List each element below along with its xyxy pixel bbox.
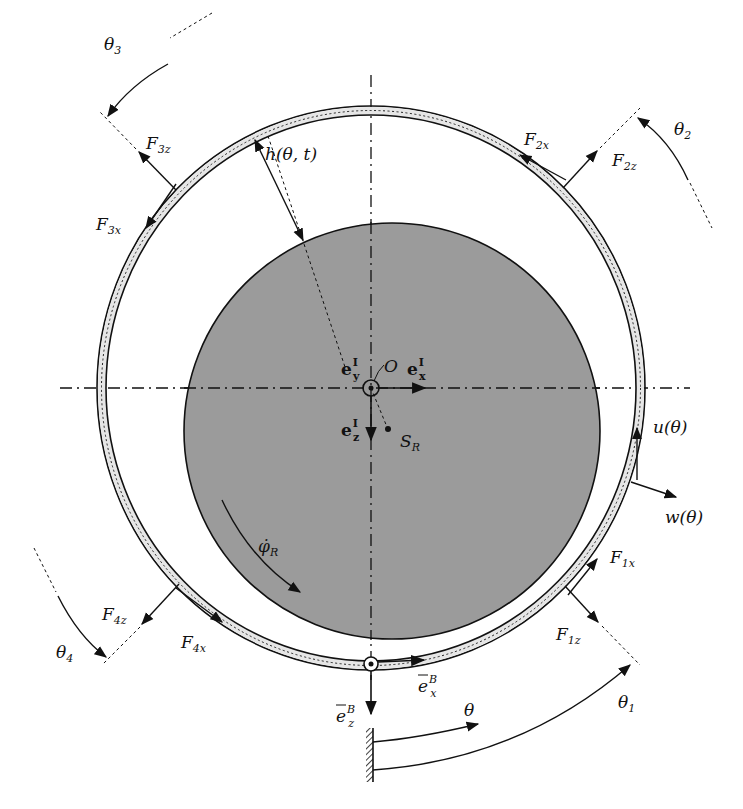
rotor-center-point [385, 426, 391, 432]
svg-text:eIz: eIz [341, 417, 359, 444]
svg-text:F1x: F1x [609, 547, 636, 570]
svg-text:eIy: eIy [341, 356, 360, 383]
svg-text:eBz: eBz [336, 703, 355, 730]
F2z-arrow [563, 151, 597, 188]
svg-text:F2z: F2z [611, 150, 637, 173]
svg-text:θ1: θ1 [618, 692, 635, 715]
F4z-arrow [142, 584, 179, 624]
svg-text:eIx: eIx [407, 356, 426, 383]
svg-text:F4z: F4z [101, 604, 127, 627]
svg-text:θ4: θ4 [56, 642, 73, 665]
w-displacement-arrow [631, 482, 676, 497]
force-1: F1x F1z [555, 547, 640, 665]
svg-text:F3x: F3x [95, 214, 122, 237]
origin-label: O [384, 356, 398, 376]
F3z-arrow [139, 152, 176, 190]
rotor-ring-diagram: h(θ, t) SR O eIx eIy eIz φ̇R F1x F1z u(θ… [0, 0, 743, 809]
spin-rate-label: φ̇ [258, 536, 270, 556]
theta3-arrow [108, 64, 168, 116]
F1z-arrow [565, 586, 598, 622]
svg-text:eBx: eBx [418, 673, 437, 700]
rotor-center-label: S [400, 431, 412, 451]
svg-text:θ2: θ2 [674, 119, 691, 142]
theta-arrow [373, 724, 478, 742]
svg-text:F3z: F3z [145, 133, 171, 156]
theta-label: θ [464, 700, 474, 720]
force-4: F4z F4x [101, 584, 222, 665]
rotor-disc [184, 223, 600, 639]
ez-B-label: e [336, 706, 346, 726]
svg-text:F4x: F4x [180, 632, 207, 655]
theta1-arrow [373, 665, 630, 770]
svg-text:F1z: F1z [555, 624, 581, 647]
theta4-label: θ [56, 642, 66, 662]
ey-I-label: e [341, 359, 352, 379]
F4x-arrow [176, 588, 222, 622]
theta1-label: θ [618, 692, 628, 712]
gap-label: h(θ, t) [265, 144, 317, 164]
theta3-label: θ [104, 34, 114, 54]
ex-I-label: e [407, 359, 418, 379]
w-label: w(θ) [665, 507, 703, 527]
ex-B-label: e [418, 676, 428, 696]
svg-text:F2x: F2x [523, 129, 550, 152]
ez-I-label: e [341, 420, 352, 440]
ground-hatch [366, 728, 373, 782]
theta2-label: θ [674, 119, 684, 139]
svg-text:θ3: θ3 [104, 34, 121, 57]
u-label: u(θ) [653, 417, 687, 437]
